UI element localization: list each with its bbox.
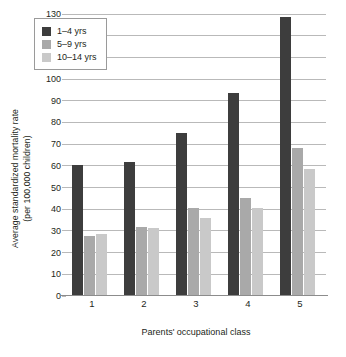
bar bbox=[228, 93, 239, 295]
x-axis-tick-label: 3 bbox=[193, 298, 198, 309]
bar bbox=[200, 218, 211, 295]
y-axis-tick-mark bbox=[62, 122, 66, 123]
y-axis-tick-mark bbox=[62, 14, 66, 15]
y-axis-tick-mark bbox=[62, 79, 66, 80]
y-axis-tick-label: 50 bbox=[51, 183, 61, 193]
y-axis-tick-label: 60 bbox=[51, 161, 61, 171]
gridline bbox=[66, 14, 326, 15]
y-axis-tick-label: 20 bbox=[51, 248, 61, 258]
y-axis-tick-label: 30 bbox=[51, 226, 61, 236]
bar bbox=[148, 228, 159, 295]
bar bbox=[96, 234, 107, 295]
legend-swatch-icon bbox=[42, 40, 51, 49]
y-axis-title-line1: Average standardized mortality rate bbox=[10, 109, 22, 248]
y-axis-tick-mark bbox=[62, 274, 66, 275]
bar-group bbox=[176, 133, 211, 295]
legend: 1–4 yrs5–9 yrs10–14 yrs bbox=[34, 18, 107, 70]
bar-group bbox=[280, 17, 315, 295]
bar bbox=[304, 169, 315, 295]
y-axis-tick-label: 0 bbox=[56, 291, 61, 301]
bar bbox=[72, 165, 83, 295]
x-axis-tick-label: 4 bbox=[245, 298, 250, 309]
y-axis-tick-mark bbox=[62, 187, 66, 188]
y-axis-tick-mark bbox=[62, 230, 66, 231]
x-axis-tick-label: 1 bbox=[89, 298, 94, 309]
y-axis-tick-mark bbox=[62, 144, 66, 145]
x-axis-line bbox=[60, 295, 328, 296]
bar bbox=[84, 236, 95, 295]
bar bbox=[252, 208, 263, 295]
y-axis-tick-mark bbox=[62, 209, 66, 210]
y-axis-tick-mark bbox=[62, 165, 66, 166]
x-axis-tick-label: 2 bbox=[141, 298, 146, 309]
bar bbox=[136, 227, 147, 295]
x-axis-title: Parents' occupational class bbox=[66, 327, 326, 337]
bar bbox=[188, 208, 199, 295]
x-axis-tick-labels: 12345 bbox=[66, 298, 326, 314]
bar bbox=[280, 17, 291, 295]
legend-item-label: 10–14 yrs bbox=[57, 52, 97, 62]
y-axis-tick-label: 90 bbox=[51, 96, 61, 106]
bar bbox=[176, 133, 187, 295]
bar-group bbox=[228, 93, 263, 295]
x-axis-tick-label: 5 bbox=[297, 298, 302, 309]
legend-item: 5–9 yrs bbox=[42, 38, 97, 50]
legend-item: 10–14 yrs bbox=[42, 51, 97, 63]
legend-swatch-icon bbox=[42, 27, 51, 36]
y-axis-tick-label: 80 bbox=[51, 117, 61, 127]
bar bbox=[240, 198, 251, 295]
legend-item: 1–4 yrs bbox=[42, 25, 97, 37]
legend-item-label: 1–4 yrs bbox=[57, 26, 87, 36]
bar-chart: Average standardized mortality rate (per… bbox=[0, 0, 346, 357]
y-axis-tick-label: 40 bbox=[51, 204, 61, 214]
y-axis-tick-label: 10 bbox=[51, 269, 61, 279]
bar-group bbox=[72, 165, 107, 295]
legend-swatch-icon bbox=[42, 53, 51, 62]
y-axis-tick-mark bbox=[62, 252, 66, 253]
bar bbox=[292, 148, 303, 296]
bar bbox=[124, 162, 135, 295]
y-axis-tick-label: 100 bbox=[46, 74, 61, 84]
legend-item-label: 5–9 yrs bbox=[57, 39, 87, 49]
y-axis-tick-label: 70 bbox=[51, 139, 61, 149]
y-axis-tick-mark bbox=[62, 100, 66, 101]
y-axis-tick-mark bbox=[62, 296, 66, 297]
bar-group bbox=[124, 162, 159, 295]
